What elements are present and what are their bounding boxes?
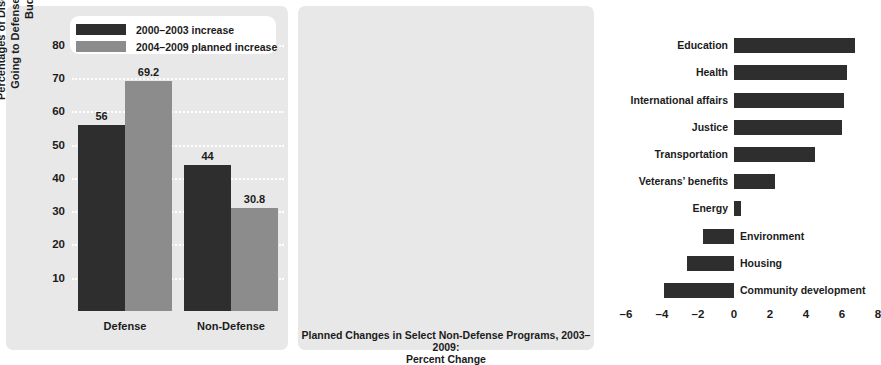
gridline-x--4 [662, 32, 664, 304]
legend-label-0: 2000–2003 increase [136, 24, 234, 36]
hbar-label-international-affairs: International affairs [631, 93, 728, 108]
bar-value-label: 30.8 [231, 193, 278, 205]
y-tick-label-60: 60 [52, 105, 65, 117]
hbar-transportation [734, 147, 815, 162]
bar-defense-1 [125, 81, 172, 311]
bar-non-defense-1 [231, 208, 278, 311]
hbar-label-energy: Energy [692, 201, 728, 216]
left-y-axis-label: Percentages of Discretionary Increases G… [0, 0, 36, 102]
right-chart-caption: Planned Changes in Select Non-Defense Pr… [300, 329, 592, 365]
hbar-energy [734, 201, 741, 216]
legend: 2000–2003 increase 2004–2009 planned inc… [70, 16, 276, 54]
x-category-non-defense: Non-Defense [197, 320, 265, 332]
hbar-health [734, 65, 847, 80]
y-tick-label-10: 10 [52, 272, 65, 284]
gridline-x--6 [626, 32, 628, 304]
hbar-label-transportation: Transportation [654, 147, 728, 162]
legend-swatch-dark [76, 24, 126, 35]
hbar-international-affairs [734, 93, 844, 108]
bar-value-label: 56 [78, 110, 125, 122]
x-tick-label-6: 6 [839, 308, 845, 320]
left-plot-area: 10203040506070805669.2Defense4430.8Non-D… [72, 28, 284, 311]
bar-defense-0 [78, 125, 125, 311]
hbar-label-housing: Housing [740, 256, 782, 271]
legend-item-1: 2004–2009 planned increase [76, 39, 270, 54]
bar-value-label: 69.2 [125, 66, 172, 78]
hbar-label-environment: Environment [740, 229, 804, 244]
x-tick-label-4: 4 [803, 308, 809, 320]
hbar-veterans-benefits [734, 174, 775, 189]
hbar-environment [703, 229, 734, 244]
legend-item-0: 2000–2003 increase [76, 22, 270, 37]
hbar-label-education: Education [677, 38, 728, 53]
x-tick-label--2: –2 [692, 308, 705, 320]
hbar-label-veterans-benefits: Veterans’ benefits [639, 174, 728, 189]
gridline-y-70 [72, 78, 284, 80]
bar-non-defense-0 [184, 165, 231, 311]
x-tick-label-2: 2 [767, 308, 773, 320]
x-tick-label--4: –4 [656, 308, 669, 320]
y-tick-label-70: 70 [52, 72, 65, 84]
gridline-x-8 [878, 32, 880, 304]
legend-label-1: 2004–2009 planned increase [136, 41, 277, 53]
y-tick-label-80: 80 [52, 39, 65, 51]
caption-line-1: Planned Changes in Select Non-Defense Pr… [300, 329, 592, 353]
legend-swatch-gray [76, 41, 126, 52]
y-tick-label-40: 40 [52, 172, 65, 184]
x-tick-label--6: –6 [620, 308, 633, 320]
hbar-justice [734, 120, 842, 135]
x-tick-label-0: 0 [731, 308, 737, 320]
hbar-housing [687, 256, 734, 271]
hbar-education [734, 38, 855, 53]
x-tick-label-8: 8 [875, 308, 881, 320]
y-tick-label-20: 20 [52, 238, 65, 250]
hbar-label-community-development: Community development [740, 283, 865, 298]
x-category-defense: Defense [104, 320, 147, 332]
y-tick-label-30: 30 [52, 205, 65, 217]
bar-value-label: 44 [184, 150, 231, 162]
caption-line-2: Percent Change [300, 353, 592, 365]
hbar-label-health: Health [696, 65, 728, 80]
hbar-label-justice: Justice [692, 120, 728, 135]
hbar-community-development [664, 283, 734, 298]
right-chart-panel: –6–4–202468EducationHealthInternational … [298, 6, 594, 350]
y-tick-label-50: 50 [52, 139, 65, 151]
right-plot-area: –6–4–202468EducationHealthInternational … [626, 32, 878, 304]
left-chart-panel: Percentages of Discretionary Increases G… [6, 6, 288, 350]
